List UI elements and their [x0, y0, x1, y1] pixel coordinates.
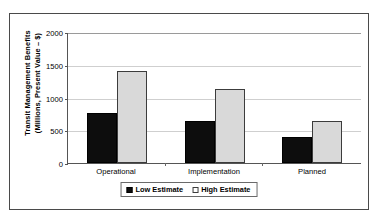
x-axis-label-operational: Operational: [67, 167, 165, 176]
legend-label-high-estimate: High Estimate: [201, 185, 250, 194]
legend-item-high-estimate: High Estimate: [192, 185, 250, 194]
y-tick-label-1500: 1500: [46, 61, 63, 70]
bar-group-implementation: [166, 33, 264, 163]
x-axis-label-implementation: Implementation: [165, 167, 263, 176]
bar-planned-low-estimate: [282, 137, 312, 163]
bar-planned-high-estimate: [312, 121, 342, 163]
legend-label-low-estimate: Low Estimate: [136, 185, 184, 194]
bar-group-operational: [68, 33, 166, 163]
x-axis-separator: [165, 163, 166, 166]
y-axis-title-line-1: Transit Management Benefits: [23, 30, 33, 135]
y-axis-title: Transit Management Benefits (Millions, P…: [20, 13, 46, 153]
legend-swatch-high-estimate-icon: [192, 187, 198, 193]
x-axis-separator: [262, 163, 263, 166]
bar-implementation-low-estimate: [185, 121, 215, 163]
bar-operational-low-estimate: [87, 113, 117, 163]
x-axis-labels: Operational Implementation Planned: [67, 167, 361, 176]
chart-legend: Low Estimate High Estimate: [121, 182, 258, 197]
legend-swatch-low-estimate-icon: [127, 187, 133, 193]
y-tick-mark-0: [65, 164, 68, 165]
y-tick-label-1000: 1000: [46, 94, 63, 103]
plot-area: 2000 1500 1000 500 0: [67, 33, 361, 164]
y-tick-label-500: 500: [50, 127, 63, 136]
y-tick-label-0: 0: [59, 160, 63, 169]
bar-implementation-high-estimate: [215, 89, 245, 163]
bar-operational-high-estimate: [117, 71, 147, 163]
bar-groups: [68, 33, 361, 163]
bar-group-planned: [263, 33, 361, 163]
x-axis-label-planned: Planned: [263, 167, 361, 176]
y-tick-label-2000: 2000: [46, 29, 63, 38]
y-axis-title-line-2: (Millions, Present Value – $): [33, 33, 43, 133]
legend-item-low-estimate: Low Estimate: [127, 185, 184, 194]
chart-figure: Transit Management Benefits (Millions, P…: [9, 13, 369, 210]
